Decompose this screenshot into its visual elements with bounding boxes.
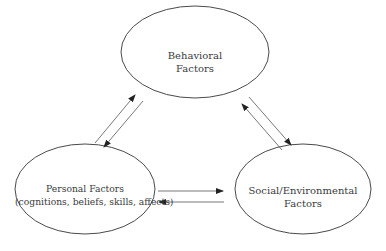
arrow-behavioral-to-personal (104, 101, 143, 147)
behavioral-label-line2: Factors (145, 62, 245, 75)
behavioral-label-line1: Behavioral (145, 49, 245, 62)
personal-label-line2: (cognitions, beliefs, skills, affects) (15, 195, 155, 208)
arrow-behavioral-to-environmental (249, 97, 291, 145)
environmental-label-line2: Factors (243, 197, 363, 210)
personal-label: Personal Factors (cognitions, beliefs, s… (15, 182, 155, 208)
arrow-environmental-to-behavioral (242, 104, 282, 150)
personal-label-line1: Personal Factors (15, 182, 155, 195)
environmental-label: Social/Environmental Factors (243, 184, 363, 210)
behavioral-label: Behavioral Factors (145, 49, 245, 75)
arrow-personal-to-behavioral (95, 95, 135, 143)
environmental-label-line1: Social/Environmental (243, 184, 363, 197)
diagram-canvas (0, 0, 386, 251)
